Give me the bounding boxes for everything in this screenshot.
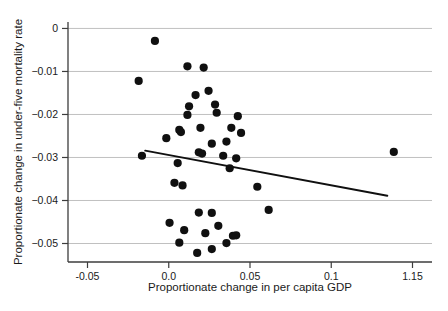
data-point <box>237 129 245 137</box>
data-point <box>232 154 240 162</box>
y-tick-label-4: −0.04 <box>31 194 58 206</box>
data-point <box>200 63 208 71</box>
data-point <box>135 77 143 85</box>
data-point <box>185 102 193 110</box>
data-point <box>183 62 191 70</box>
data-point <box>208 140 216 148</box>
data-point <box>227 124 235 132</box>
data-point <box>201 229 209 237</box>
x-axis-ticks <box>88 262 413 268</box>
data-point <box>180 226 188 234</box>
data-point <box>226 164 234 172</box>
data-point <box>222 239 230 247</box>
x-tick-label-4: 1.15 <box>402 270 423 282</box>
x-tick-label-0: -0.05 <box>76 270 100 282</box>
data-point <box>204 87 212 95</box>
x-axis-title: Proportionate change in per capita GDP <box>148 281 352 293</box>
data-point <box>198 150 206 158</box>
y-tick-label-2: −0.02 <box>31 108 58 120</box>
y-tick-label-1: −0.01 <box>31 65 58 77</box>
data-point <box>219 152 227 160</box>
data-point <box>162 134 170 142</box>
plot-canvas: 0−0.01−0.02−0.03−0.04−0.05 -0.050.00.050… <box>0 0 448 311</box>
y-tick-label-5: −0.05 <box>31 237 58 249</box>
y-axis-title: Proportionate change in under-five morta… <box>12 19 24 265</box>
gridlines <box>68 28 432 243</box>
data-point <box>165 219 173 227</box>
data-point <box>191 91 199 99</box>
scatter-plot-figure: 0−0.01−0.02−0.03−0.04−0.05 -0.050.00.050… <box>0 0 448 311</box>
data-point <box>174 159 182 167</box>
data-point <box>234 112 242 120</box>
data-point <box>390 148 398 156</box>
y-axis-ticks <box>62 28 68 243</box>
data-point <box>214 222 222 230</box>
data-point <box>175 239 183 247</box>
data-point <box>178 181 186 189</box>
data-point <box>193 249 201 257</box>
data-point <box>253 183 261 191</box>
data-point <box>196 124 204 132</box>
data-point <box>265 206 273 214</box>
data-point <box>211 100 219 108</box>
data-points-group <box>135 37 398 257</box>
data-point <box>232 231 240 239</box>
y-tick-label-3: −0.03 <box>31 151 58 163</box>
data-point <box>183 111 191 119</box>
data-point <box>138 152 146 160</box>
data-point <box>213 109 221 117</box>
data-point <box>208 209 216 217</box>
data-point <box>222 137 230 145</box>
data-point <box>170 179 178 187</box>
y-axis-tick-labels: 0−0.01−0.02−0.03−0.04−0.05 <box>31 22 58 249</box>
plot-axes <box>68 22 432 262</box>
data-point <box>195 208 203 216</box>
data-point <box>151 37 159 45</box>
data-point <box>177 128 185 136</box>
data-point <box>208 245 216 253</box>
y-tick-label-0: 0 <box>52 22 58 34</box>
